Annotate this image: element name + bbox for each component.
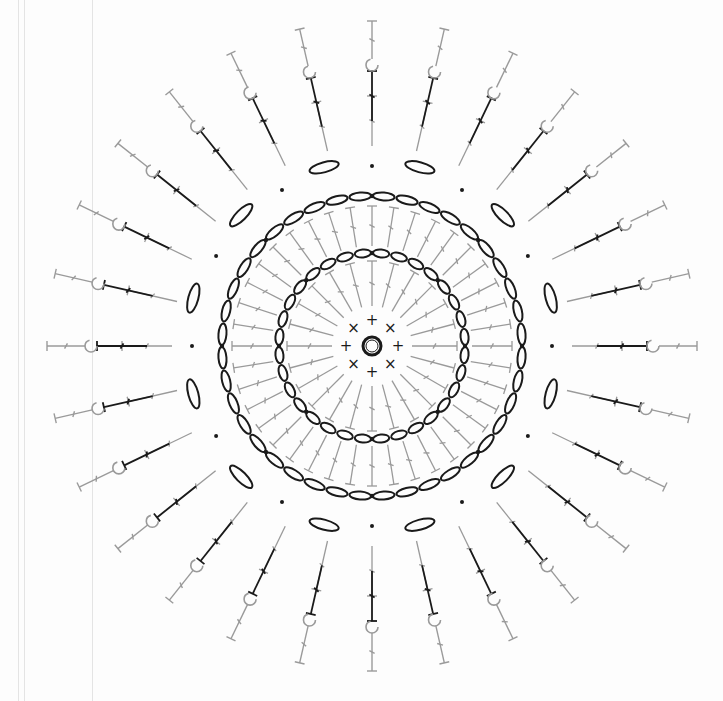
post-stitch-spokes-icon-tick	[567, 187, 568, 193]
double-crochet-and-chains-icon-tick	[432, 327, 433, 333]
slip-stitch-dot	[370, 437, 374, 441]
hook-icon	[244, 87, 256, 99]
double-crochet-and-chains-icon-bar	[443, 384, 448, 393]
slip-stitch-dot	[436, 410, 440, 414]
slip-stitch-dot	[550, 344, 554, 348]
treble-crochet-icon-tick	[440, 443, 446, 444]
picot-stitch-icon-tick	[132, 534, 133, 540]
slip-stitch-dot	[436, 278, 440, 282]
slip-stitch-dot	[463, 344, 467, 348]
treble-crochet-icon-tick	[406, 460, 412, 461]
double-crochet-and-chains-icon-tick	[327, 387, 329, 393]
treble-crochet-icon-bar	[256, 260, 262, 268]
treble-crochet-icon-tick	[257, 380, 258, 386]
hook-icon	[303, 614, 315, 626]
treble-crochet-icon-bar	[494, 405, 499, 414]
treble-crochet-icon-bar	[345, 483, 355, 485]
hook-icon	[366, 59, 378, 71]
single-crochet-icon: ×	[347, 319, 360, 337]
single-crochet-icon: +	[366, 363, 379, 381]
chain-stitch-icon	[491, 413, 509, 436]
chain-stitch-icon	[282, 209, 305, 227]
chain-space-icon	[227, 463, 255, 491]
chain-space-icon	[185, 378, 202, 410]
double-crochet-and-chains-icon-bar	[296, 384, 301, 393]
chain-stitch-icon	[460, 328, 470, 345]
hook-icon	[619, 218, 631, 230]
double-crochet-and-chains-icon-tick	[353, 285, 359, 286]
chain-stitch-icon	[390, 429, 408, 441]
chain-stitch-icon	[226, 392, 242, 415]
hook-icon	[640, 403, 652, 415]
chain-space-icon	[185, 282, 202, 314]
chain-space-icon	[308, 159, 340, 176]
double-crochet-and-chains-icon-tick	[311, 359, 312, 365]
chain-space-icon	[227, 201, 255, 229]
chain-stitch-icon	[455, 310, 467, 328]
treble-crochet-icon-bar	[345, 207, 355, 209]
treble-crochet-icon-bar	[389, 483, 399, 485]
single-crochet-icon: ×	[384, 355, 397, 373]
chain-stitch-icon	[460, 347, 470, 364]
treble-crochet-icon-tick	[469, 272, 470, 278]
chain-stitch-icon	[349, 192, 371, 202]
slip-stitch-dot	[370, 494, 374, 498]
treble-crochet-icon-bar	[304, 219, 313, 224]
chain-stitch-icon	[439, 465, 462, 483]
chain-space-icon	[542, 378, 559, 410]
chain-stitch-icon	[275, 328, 285, 345]
chain-stitch-icon	[326, 485, 349, 498]
double-crochet-and-chains-icon-bar	[410, 417, 419, 422]
chain-stitch-icon	[277, 310, 289, 328]
single-crochet-icon: +	[392, 337, 405, 355]
treble-crochet-icon-bar	[233, 363, 235, 373]
treble-crochet-icon-bar	[482, 424, 488, 432]
chain-stitch-icon	[439, 209, 462, 227]
hook-icon	[619, 462, 631, 474]
chain-stitch-icon	[455, 364, 467, 382]
treble-crochet-icon-tick	[454, 430, 460, 432]
slip-stitch-dot	[264, 238, 268, 242]
chain-stitch-icon	[226, 277, 242, 300]
post-stitch-spokes-icon-tick	[621, 343, 624, 348]
treble-crochet-icon-bar	[450, 456, 458, 462]
treble-crochet-icon-bar	[450, 230, 458, 236]
hook-icon	[146, 165, 158, 177]
chain-stitch-icon	[220, 370, 233, 393]
chain-stitch-icon	[235, 256, 253, 279]
slip-stitch-dot	[214, 254, 218, 258]
picot-stitch-icon-bar	[165, 597, 173, 603]
hook-icon	[429, 66, 441, 78]
chain-space-icon	[489, 201, 517, 229]
slip-stitch-dot	[277, 344, 281, 348]
treble-crochet-icon-tick	[332, 231, 338, 232]
chain-stitch-icon	[517, 347, 527, 369]
hook-icon	[586, 165, 598, 177]
single-crochet-icon: +	[340, 337, 353, 355]
hook-icon	[488, 87, 500, 99]
slip-stitch-dot	[476, 238, 480, 242]
slip-stitch-dot	[370, 524, 374, 528]
chain-stitch-icon	[336, 429, 354, 441]
treble-crochet-icon-bar	[286, 230, 294, 236]
chain-stitch-icon	[491, 256, 509, 279]
chain-space-icon	[404, 516, 436, 533]
single-crochet-icon: +	[366, 311, 379, 329]
picot-stitch-icon-bar	[623, 139, 629, 147]
treble-crochet-icon-tick	[298, 249, 304, 250]
picot-stitch-icon-tick	[560, 585, 566, 586]
treble-crochet-icon-bar	[494, 278, 499, 287]
chain-stitch-icon	[511, 370, 524, 393]
chain-stitch-icon	[390, 251, 408, 263]
picot-stitch-icon-tick	[301, 47, 307, 49]
treble-crochet-icon-tick	[486, 306, 487, 312]
chain-stitch-icon	[218, 323, 228, 345]
chain-space-icon	[542, 282, 559, 314]
treble-crochet-icon-bar	[509, 319, 511, 329]
picot-stitch-icon-bar	[115, 139, 121, 147]
slip-stitch-dot	[370, 164, 374, 168]
hook-icon	[586, 515, 598, 527]
hook-icon	[541, 560, 553, 572]
crochet-chart: +×+×+×+×	[0, 0, 723, 701]
picot-stitch-icon-bar	[623, 545, 629, 553]
